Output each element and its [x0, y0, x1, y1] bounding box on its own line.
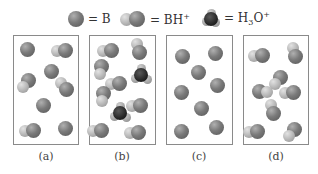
base-sphere-icon — [58, 43, 73, 58]
base-sphere-icon — [174, 124, 189, 139]
base-sphere-icon — [104, 43, 119, 58]
base-sphere-icon — [132, 45, 147, 60]
base-sphere-icon — [286, 85, 301, 100]
base-sphere-icon — [68, 11, 84, 27]
hydronium-molecule-icon — [202, 10, 220, 28]
base-sphere-icon — [250, 124, 265, 139]
base-sphere-icon — [131, 125, 146, 140]
base-sphere-icon — [174, 85, 189, 100]
base-sphere-icon — [194, 101, 209, 116]
base-sphere-icon — [44, 64, 59, 79]
base-sphere-icon — [191, 65, 206, 80]
base-sphere-icon — [36, 98, 51, 113]
oxygen-sphere-icon — [113, 106, 127, 120]
base-sphere-icon — [112, 76, 127, 91]
base-sphere-icon — [266, 106, 281, 121]
hydrogen-sphere-icon — [94, 68, 106, 80]
base-sphere-icon — [210, 78, 225, 93]
conjugate-acid-molecule-icon — [119, 11, 146, 27]
legend-conjugate-acid: = BH+ — [119, 10, 190, 28]
base-sphere-icon — [20, 42, 35, 57]
panel-label-a: (a) — [26, 150, 66, 163]
legend-base: = B — [68, 10, 111, 28]
base-sphere-icon — [288, 49, 303, 64]
panel-label-b: (b) — [102, 150, 142, 163]
legend-base-label: = B — [88, 12, 111, 26]
base-sphere-icon — [133, 98, 148, 113]
base-sphere-icon — [255, 48, 270, 63]
legend-hydronium: = H3O+ — [202, 10, 270, 28]
legend-conjugate-acid-label: = BH+ — [150, 12, 190, 27]
base-sphere-icon — [59, 82, 74, 97]
panel-label-c: (c) — [179, 150, 219, 163]
base-sphere-icon — [58, 121, 73, 136]
oxygen-sphere-icon — [134, 68, 148, 82]
base-sphere-icon — [208, 46, 223, 61]
base-sphere-icon — [209, 120, 224, 135]
base-sphere-icon — [94, 123, 109, 138]
hydrogen-sphere-icon — [283, 130, 295, 142]
hydrogen-sphere-icon — [261, 86, 273, 98]
base-sphere-icon — [175, 49, 190, 64]
legend-hydronium-label: = H3O+ — [224, 10, 270, 27]
panel-label-d: (d) — [256, 150, 296, 163]
base-sphere-icon — [26, 123, 41, 138]
hydrogen-sphere-icon — [96, 95, 108, 107]
hydrogen-sphere-icon — [17, 81, 29, 93]
